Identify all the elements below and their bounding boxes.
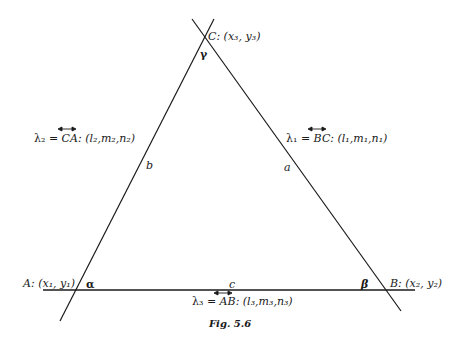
angle-beta: β [361,279,368,290]
lambda1-label: λ₁ = BC: (l₁,m₁,n₁) [286,133,387,144]
side-c: c [229,279,235,290]
side-a: a [284,162,291,173]
double-arrow-ca-icon [58,127,76,131]
angle-alpha: α [86,279,94,290]
vertex-a-label: A: (x₁, y₁) [23,278,75,289]
lambda2-name: λ₂ = [34,132,62,145]
angle-gamma: γ [200,49,207,60]
figure-caption: Fig. 5.6 [209,319,251,329]
line-ca [60,19,214,321]
lambda2-segment: CA [62,132,78,145]
vertex-c-label: C: (x₃, y₃) [208,31,260,42]
lambda3-direction: : (l₃,m₃,n₃) [236,295,293,308]
lambda1-segment: BC [314,132,331,145]
vertex-c-text: C: (x₃, y₃) [208,30,260,43]
lambda1-name: λ₁ = [286,132,314,145]
lambda3-segment: AB [220,295,236,308]
side-b: b [146,160,153,171]
line-bc [192,19,401,311]
lambda3-name: λ₃ = [192,295,220,308]
lambda2-direction: : (l₂,m₂,n₂) [78,132,135,145]
double-arrow-bc-icon [308,127,326,131]
lambda3-label: λ₃ = AB: (l₃,m₃,n₃) [192,296,293,307]
vertex-b-label: B: (x₂, y₂) [390,278,442,289]
lambda2-label: λ₂ = CA: (l₂,m₂,n₂) [34,133,135,144]
lambda1-direction: : (l₁,m₁,n₁) [330,132,387,145]
